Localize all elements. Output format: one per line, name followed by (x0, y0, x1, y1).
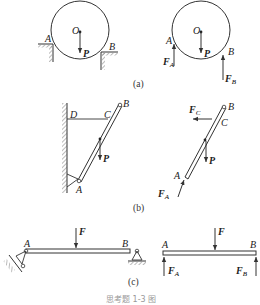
svg-text:P: P (103, 153, 110, 164)
svg-text:A: A (165, 35, 173, 46)
svg-text:F: F (78, 226, 86, 237)
svg-text:C: C (104, 109, 111, 120)
beam (26, 249, 130, 253)
figure-caption: 思考题 1-3 图 (106, 295, 156, 304)
panel-label-a: (a) (133, 79, 144, 90)
label-FB: FB (224, 73, 237, 86)
svg-text:B: B (228, 46, 234, 57)
reaction-A-arrow-icon (178, 180, 184, 197)
svg-text:A: A (75, 184, 83, 195)
svg-text:A: A (23, 238, 31, 249)
label-O: O (72, 25, 79, 36)
panel-label-c: (c) (128, 277, 139, 288)
label-FC: FC (188, 104, 201, 117)
label-A: A (44, 33, 52, 44)
label-FB: FB (235, 265, 248, 278)
roller-support-A (16, 251, 26, 264)
label-FA: FA (167, 265, 180, 278)
panel-a-right: O A B P FA FB (a) (133, 1, 237, 90)
svg-text:P: P (204, 48, 211, 59)
svg-text:B: B (228, 101, 234, 112)
svg-text:P: P (209, 155, 216, 166)
panel-a-left: O A B P (38, 1, 118, 70)
panel-c-left: F A B (3, 226, 146, 272)
panel-c-right: F A B FA FB (c) (128, 226, 256, 288)
panel-b-left: D C B A P (62, 98, 129, 195)
svg-text:F: F (217, 226, 225, 237)
svg-text:O: O (193, 25, 200, 36)
label-P: P (83, 48, 90, 59)
panel-label-b: (b) (133, 203, 144, 214)
label-FA: FA (157, 188, 170, 201)
statics-diagram: O A B P O A B P FA FB (a) D C B A P (0, 0, 260, 305)
svg-text:B: B (250, 239, 256, 250)
label-FA: FA (162, 56, 175, 69)
svg-text:A: A (173, 170, 181, 181)
svg-text:D: D (69, 109, 78, 120)
svg-text:B: B (122, 238, 128, 249)
rod-AB (81, 106, 122, 182)
label-B: B (109, 41, 115, 52)
panel-b-right: B C A P FC FA (b) (133, 101, 234, 214)
svg-text:C: C (221, 117, 228, 128)
svg-text:A: A (161, 239, 169, 250)
svg-text:B: B (123, 98, 129, 109)
beam-fbd (163, 251, 256, 255)
